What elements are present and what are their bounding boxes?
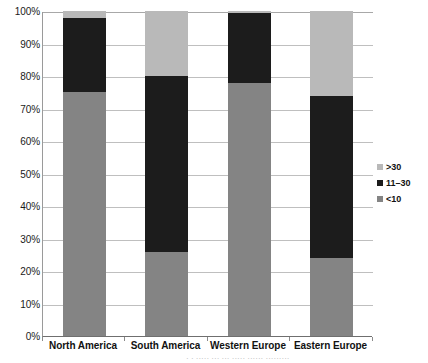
bar-segment-lt10 <box>63 92 106 336</box>
bar-segment-gt30 <box>228 11 271 13</box>
bar-south-america[interactable] <box>145 11 188 336</box>
legend-swatch-gt30-icon <box>377 164 383 170</box>
bar-segment-gt30 <box>145 11 188 76</box>
legend: >30 11–30 <10 <box>377 159 428 207</box>
bar-eastern-europe[interactable] <box>310 11 353 336</box>
figure-caption: · · ····· ··· ··· ····· ······ ········· <box>186 354 428 363</box>
legend-item-lt10[interactable]: <10 <box>377 191 428 207</box>
y-axis-label: 90% <box>4 40 40 50</box>
bar-segment-lt10 <box>145 252 188 337</box>
bar-western-europe[interactable] <box>228 11 271 336</box>
y-axis-label: 60% <box>4 137 40 147</box>
bar-segment-lt10 <box>310 258 353 336</box>
stacked-bar-chart: 100% 90% 80% 70% 60% 50% 40% 30% 20% 10%… <box>0 0 428 363</box>
y-axis-label: 100% <box>4 7 40 17</box>
y-axis-label: 70% <box>4 105 40 115</box>
bar-segment-11-30 <box>310 96 353 259</box>
y-axis-label: 50% <box>4 170 40 180</box>
y-axis-label: 10% <box>4 300 40 310</box>
y-axis-label: 40% <box>4 202 40 212</box>
x-axis-label-western-europe: Western Europe <box>207 340 289 352</box>
y-axis-label: 0% <box>4 332 40 342</box>
bar-segment-gt30 <box>310 11 353 96</box>
y-axis: 100% 90% 80% 70% 60% 50% 40% 30% 20% 10%… <box>0 0 40 363</box>
plot-area <box>42 12 372 337</box>
legend-item-gt30[interactable]: >30 <box>377 159 428 175</box>
x-axis-label-eastern-europe: Eastern Europe <box>289 340 372 352</box>
legend-label-gt30: >30 <box>386 163 401 172</box>
bar-segment-gt30 <box>63 11 106 18</box>
bar-north-america[interactable] <box>63 11 106 336</box>
bar-segment-11-30 <box>228 13 271 83</box>
bar-segment-lt10 <box>228 83 271 337</box>
y-axis-label: 80% <box>4 72 40 82</box>
bar-segment-11-30 <box>63 18 106 93</box>
legend-swatch-lt10-icon <box>377 196 383 202</box>
x-axis-label-south-america: South America <box>124 340 207 352</box>
legend-label-11-30: 11–30 <box>386 179 411 188</box>
x-axis-label-north-america: North America <box>42 340 124 352</box>
legend-item-11-30[interactable]: 11–30 <box>377 175 428 191</box>
legend-label-lt10: <10 <box>386 195 401 204</box>
legend-swatch-11-30-icon <box>377 180 383 186</box>
x-axis-tick <box>372 337 373 341</box>
y-axis-label: 20% <box>4 267 40 277</box>
bar-segment-11-30 <box>145 76 188 252</box>
y-axis-label: 30% <box>4 235 40 245</box>
